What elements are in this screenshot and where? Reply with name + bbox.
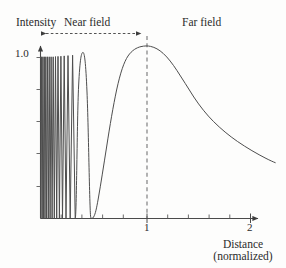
plot-canvas bbox=[0, 0, 286, 268]
x-tick-label-1: 1 bbox=[144, 222, 150, 234]
intensity-curve bbox=[41, 46, 276, 219]
x-axis-minor-ticks bbox=[61, 215, 230, 219]
x-tick-label-2: 2 bbox=[247, 222, 253, 234]
x-axis-title-line2: (normalized) bbox=[205, 250, 281, 262]
y-axis-title: Intensity bbox=[16, 16, 56, 28]
y-tick-label-1.0: 1.0 bbox=[15, 48, 29, 60]
intensity-distance-figure: Intensity 1.0 Near field Far field 1 2 D… bbox=[0, 0, 286, 268]
far-field-label: Far field bbox=[182, 16, 221, 28]
y-axis-ticks bbox=[37, 58, 41, 187]
near-field-label: Near field bbox=[64, 16, 110, 28]
x-axis-title-line1: Distance bbox=[205, 238, 281, 250]
x-axis-title: Distance (normalized) bbox=[205, 238, 281, 263]
